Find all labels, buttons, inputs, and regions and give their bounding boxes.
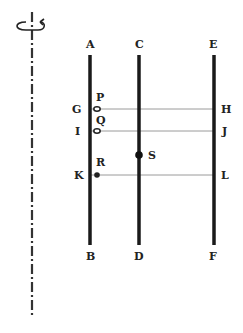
label-F: F xyxy=(209,250,217,263)
label-A: A xyxy=(85,38,95,51)
bead-Q xyxy=(94,129,100,133)
label-Q: Q xyxy=(96,114,106,127)
label-B: B xyxy=(86,250,95,263)
label-K: K xyxy=(74,169,84,182)
label-L: L xyxy=(221,169,229,182)
strings xyxy=(90,109,214,175)
labels: A C E B D F G I K H J L P Q R S xyxy=(72,38,231,263)
label-S: S xyxy=(148,149,156,162)
label-G: G xyxy=(72,103,81,116)
bead-R xyxy=(94,172,100,178)
label-I: I xyxy=(75,125,80,138)
bead-S xyxy=(135,151,143,159)
rotation-arrow-icon xyxy=(17,19,44,30)
label-R: R xyxy=(96,156,106,169)
label-C: C xyxy=(135,38,144,51)
label-D: D xyxy=(134,250,144,263)
label-E: E xyxy=(209,38,217,51)
rotating-frame-diagram: A C E B D F G I K H J L P Q R S xyxy=(0,0,243,333)
label-H: H xyxy=(221,103,231,116)
label-P: P xyxy=(96,91,104,104)
bead-P xyxy=(94,107,100,111)
label-J: J xyxy=(221,125,227,138)
